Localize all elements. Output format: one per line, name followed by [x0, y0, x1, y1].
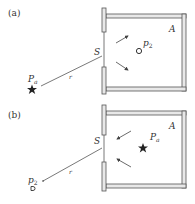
right-wall [182, 111, 186, 188]
receiver-label: p2 [143, 38, 153, 49]
diagram-canvas: (a) S A p2 r Pa (b) [0, 0, 195, 204]
room-label: A [168, 24, 176, 34]
bottom-wall [106, 184, 186, 188]
sound-arrow-down [116, 62, 128, 70]
distance-line [41, 56, 102, 86]
distance-line [43, 148, 102, 181]
source-label: Pa [27, 74, 38, 85]
panel-b: (b) S A Pa r p2 [8, 105, 186, 191]
panel-b-label: (b) [8, 110, 21, 120]
bottom-wall [106, 87, 186, 91]
receiver-label: p2 [28, 175, 38, 186]
top-wall [106, 111, 186, 115]
sound-arrow-upper [117, 131, 131, 139]
left-wall-upper [102, 8, 106, 32]
slit-label: S [94, 47, 100, 57]
receiver-icon [136, 48, 141, 53]
distance-label: r [69, 73, 73, 80]
panel-a: (a) S A p2 r Pa [8, 8, 186, 94]
sound-arrow-up [116, 36, 128, 43]
top-wall [106, 14, 186, 18]
left-wall-lower [102, 162, 106, 191]
slit-label: S [94, 136, 100, 146]
room-a-walls [102, 8, 186, 94]
left-wall-upper [102, 105, 106, 135]
source-star-icon [138, 143, 148, 153]
distance-label: r [69, 168, 73, 175]
panel-a-label: (a) [8, 8, 20, 18]
sound-arrow-lower [117, 159, 131, 167]
distance-line-end [42, 180, 44, 182]
receiver-icon [31, 187, 35, 191]
source-label: Pa [149, 132, 160, 143]
right-wall [182, 14, 186, 91]
left-wall-lower [102, 67, 106, 94]
room-label: A [168, 121, 176, 131]
source-star-icon [27, 85, 37, 95]
